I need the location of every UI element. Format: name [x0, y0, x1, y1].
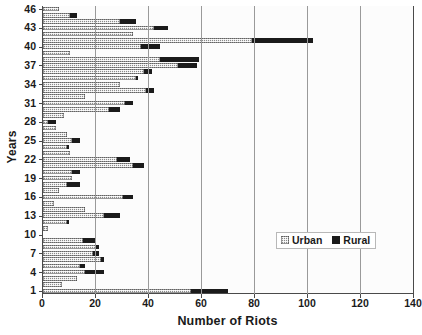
y-tick-mark — [39, 84, 42, 85]
legend-item-urban: Urban — [281, 235, 322, 246]
bar-row — [43, 120, 56, 125]
bar-segment-urban — [43, 13, 70, 18]
bar-row — [43, 163, 144, 168]
bar-segment-rural — [80, 264, 85, 269]
y-tick-label: 37 — [8, 60, 36, 71]
bar-row — [43, 220, 69, 225]
x-tick-label: 0 — [22, 297, 62, 309]
bar-row — [43, 238, 96, 243]
bar-segment-urban — [43, 32, 133, 37]
bar-segment-rural — [104, 213, 120, 218]
y-tick-label: 22 — [8, 154, 36, 165]
x-tick-label: 40 — [128, 297, 168, 309]
bar-segment-urban — [43, 195, 123, 200]
bar-segment-rural — [120, 19, 136, 24]
y-tick-label: 1 — [8, 285, 36, 296]
bar-segment-rural — [117, 157, 130, 162]
x-tick-label: 100 — [287, 297, 327, 309]
gridline — [360, 6, 361, 294]
bar-row — [43, 88, 154, 93]
gridline — [254, 6, 255, 294]
riots-bar-chart: Years 14710131619222528313437404346 0204… — [0, 0, 422, 335]
bar-segment-rural — [136, 76, 139, 81]
y-tick-mark — [39, 159, 42, 160]
bar-segment-rural — [67, 220, 70, 225]
bar-segment-urban — [43, 126, 56, 131]
bar-row — [43, 264, 85, 269]
y-tick-mark — [39, 141, 42, 142]
bar-row — [43, 101, 133, 106]
bar-row — [43, 276, 77, 281]
bar-segment-rural — [109, 107, 120, 112]
y-tick-mark — [39, 9, 42, 10]
x-tick-label: 80 — [234, 297, 274, 309]
y-tick-label: 16 — [8, 191, 36, 202]
bar-row — [43, 245, 99, 250]
urban-swatch-icon — [281, 236, 289, 244]
bar-row — [43, 57, 199, 62]
bar-row — [43, 13, 77, 18]
chart-legend: Urban Rural — [276, 232, 376, 249]
y-tick-mark — [39, 28, 42, 29]
bar-row — [43, 7, 59, 12]
x-axis-title: Number of Riots — [42, 314, 413, 328]
bar-row — [43, 126, 56, 131]
bar-segment-urban — [43, 220, 67, 225]
bar-segment-urban — [43, 207, 85, 212]
gridline — [148, 6, 149, 294]
y-tick-label: 13 — [8, 210, 36, 221]
rural-swatch-icon — [332, 236, 340, 244]
y-tick-mark — [39, 291, 42, 292]
bar-segment-urban — [43, 94, 85, 99]
bar-segment-urban — [43, 157, 117, 162]
bar-row — [43, 188, 59, 193]
bar-row — [43, 132, 67, 137]
bar-segment-urban — [43, 182, 67, 187]
y-tick-mark — [39, 103, 42, 104]
bar-row — [43, 113, 64, 118]
gridline — [307, 6, 308, 294]
y-tick-label: 34 — [8, 79, 36, 90]
bar-row — [43, 251, 99, 256]
bar-segment-urban — [43, 19, 120, 24]
bar-segment-urban — [43, 188, 59, 193]
bar-segment-urban — [43, 245, 96, 250]
bar-segment-rural — [141, 44, 160, 49]
y-tick-label: 31 — [8, 98, 36, 109]
legend-label-rural: Rural — [343, 235, 370, 246]
plot-area — [42, 6, 413, 294]
bar-segment-urban — [43, 289, 191, 294]
y-tick-mark — [39, 122, 42, 123]
bar-segment-urban — [43, 270, 85, 275]
bar-segment-urban — [43, 282, 62, 287]
bar-row — [43, 76, 138, 81]
y-tick-mark — [39, 253, 42, 254]
bar-row — [43, 44, 160, 49]
y-tick-mark — [39, 235, 42, 236]
y-tick-mark — [39, 216, 42, 217]
bar-segment-rural — [67, 182, 80, 187]
y-tick-label: 28 — [8, 116, 36, 127]
x-tick-label: 20 — [75, 297, 115, 309]
bar-row — [43, 213, 120, 218]
bar-row — [43, 19, 136, 24]
gridline — [95, 6, 96, 294]
bar-segment-urban — [43, 276, 77, 281]
bar-row — [43, 195, 133, 200]
bar-segment-rural — [154, 26, 167, 31]
legend-item-rural: Rural — [332, 235, 370, 246]
x-tick-label: 120 — [340, 297, 380, 309]
bar-segment-urban — [43, 151, 70, 156]
bar-segment-urban — [43, 57, 160, 62]
bar-segment-urban — [43, 170, 72, 175]
bar-segment-urban — [43, 44, 141, 49]
bar-segment-urban — [43, 163, 133, 168]
y-tick-label: 46 — [8, 4, 36, 15]
bar-row — [43, 176, 72, 181]
bar-row — [43, 38, 313, 43]
bar-segment-urban — [43, 107, 109, 112]
bar-row — [43, 69, 152, 74]
y-tick-label: 4 — [8, 267, 36, 278]
bar-row — [43, 138, 80, 143]
bar-segment-urban — [43, 101, 125, 106]
